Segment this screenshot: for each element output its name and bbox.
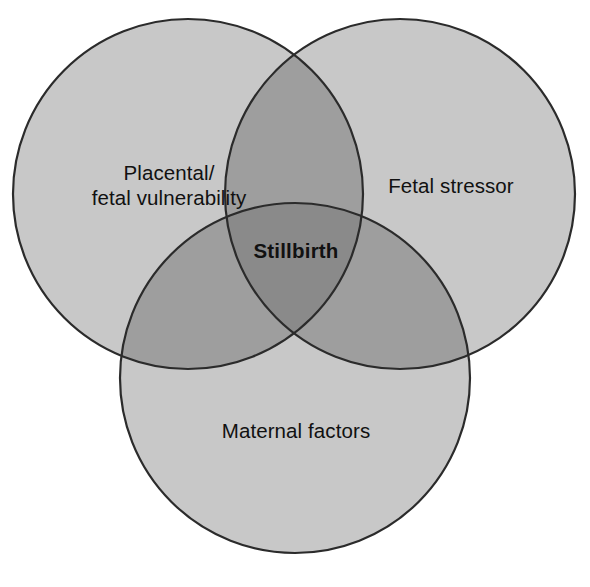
venn-circles-graphic <box>0 0 590 587</box>
label-fetal-stressor: Fetal stressor <box>346 173 556 198</box>
label-stillbirth-intersection: Stillbirth <box>208 238 384 263</box>
label-placental-fetal-vulnerability: Placental/ fetal vulnerability <box>44 160 294 210</box>
venn-diagram: Placental/ fetal vulnerability Fetal str… <box>0 0 590 587</box>
label-maternal-factors: Maternal factors <box>198 418 394 443</box>
